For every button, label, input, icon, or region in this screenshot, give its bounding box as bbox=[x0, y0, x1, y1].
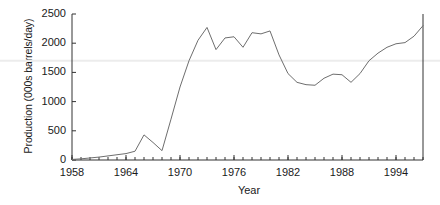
data-series-production bbox=[72, 26, 423, 160]
plot-area bbox=[0, 0, 440, 205]
production-line-chart: Production (000s barrels/day) Year 05001… bbox=[0, 0, 440, 205]
